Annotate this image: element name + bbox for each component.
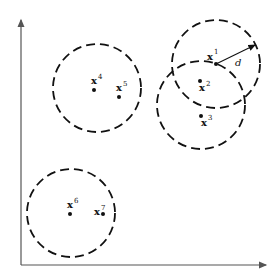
svg-text:x: x	[67, 199, 74, 210]
svg-text:x: x	[94, 206, 101, 217]
svg-text:5: 5	[123, 80, 127, 88]
point-x4: x4	[91, 73, 103, 92]
svg-text:1: 1	[214, 48, 218, 56]
cluster-diagram: d x1 x2 x3 x4 x5 x6 x7	[0, 0, 280, 278]
svg-text:x: x	[199, 82, 206, 93]
svg-text:2: 2	[206, 80, 210, 88]
svg-text:x: x	[91, 75, 98, 86]
point-x2: x2	[198, 79, 210, 93]
svg-text:3: 3	[208, 114, 212, 122]
svg-text:x: x	[207, 51, 214, 62]
circle-x4-x5	[53, 44, 141, 132]
svg-text:7: 7	[101, 204, 105, 212]
svg-text:x: x	[116, 82, 123, 93]
point-x7: x7	[94, 204, 105, 217]
point-x3: x3	[199, 114, 212, 128]
svg-text:4: 4	[98, 73, 103, 81]
point-x1: x1	[207, 48, 218, 66]
radius-label: d	[235, 57, 241, 68]
svg-text:x: x	[201, 117, 208, 128]
point-x5: x5	[116, 80, 127, 99]
svg-text:6: 6	[74, 197, 79, 205]
point-x6: x6	[67, 197, 79, 216]
